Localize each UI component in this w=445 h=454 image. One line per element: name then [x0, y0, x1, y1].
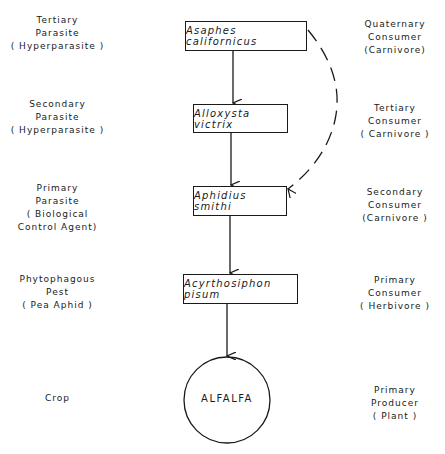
left-label-crop: Crop: [10, 392, 105, 405]
right-label-primary-producer: Primary Producer ( Plant ): [350, 384, 440, 423]
node-acyrthosiphon-pisum: Acyrthosiphon pisum: [183, 274, 298, 304]
node-asaphes-californicus: Asaphes californicus: [185, 21, 307, 51]
node-alloxysta-victrix: Alloxysta victrix: [193, 104, 288, 133]
node-alfalfa: ALFALFA: [184, 393, 270, 404]
node-label: Alloxysta victrix: [194, 108, 287, 130]
left-label-secondary-parasite: Secondary Parasite ( Hyperparasite ): [10, 98, 105, 137]
node-label: ALFALFA: [201, 393, 253, 404]
node-label: Acyrthosiphon pisum: [184, 278, 297, 300]
right-label-primary-consumer: Primary Consumer ( Herbivore ): [350, 274, 440, 313]
left-label-primary-parasite: Primary Parasite ( Biological Control Ag…: [10, 182, 105, 234]
right-label-secondary-consumer: Secondary Consumer (Carnivore ): [350, 186, 440, 225]
left-label-tertiary-parasite: Tertiary Parasite ( Hyperparasite ): [10, 14, 105, 53]
node-label: Asaphes californicus: [186, 25, 306, 47]
left-label-phytophagous-pest: Phytophagous Pest ( Pea Aphid ): [10, 273, 105, 312]
node-label: Aphidius smithi: [194, 190, 286, 212]
right-label-quaternary-consumer: Quaternary Consumer (Carnivore): [350, 18, 440, 57]
right-label-tertiary-consumer: Tertiary Consumer ( Carnivore ): [350, 102, 440, 141]
node-aphidius-smithi: Aphidius smithi: [193, 186, 287, 216]
dashed-arrow-asaphes-to-aphidius: [288, 30, 337, 189]
